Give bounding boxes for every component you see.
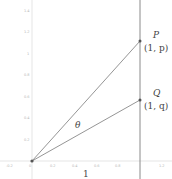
svg-text:0.4: 0.4 <box>24 116 30 120</box>
x-tick-labels: -0.2 0 0.2 0.4 0.6 0.8 1.2 <box>6 164 165 168</box>
y-tick-labels: 0.2 0.4 0.6 0.8 1 1.2 1.4 <box>24 9 30 142</box>
svg-text:1.2: 1.2 <box>159 164 165 168</box>
label-q-coord: (1, q) <box>144 101 168 111</box>
label-q: Q <box>153 88 161 98</box>
svg-text:0.8: 0.8 <box>115 164 121 168</box>
svg-text:1: 1 <box>27 52 29 56</box>
label-unit-length: 1 <box>83 169 89 179</box>
origin-point <box>30 159 33 162</box>
label-p-coord: (1, p) <box>144 43 168 53</box>
svg-text:1.2: 1.2 <box>24 30 30 34</box>
ray-oq <box>32 100 140 161</box>
ray-op <box>32 41 140 161</box>
label-p: P <box>152 30 160 40</box>
svg-text:1.4: 1.4 <box>24 9 30 13</box>
svg-text:0.8: 0.8 <box>24 73 30 77</box>
diagram-canvas: -0.2 0 0.2 0.4 0.6 0.8 1.2 0.2 0.4 0.6 0… <box>0 0 172 179</box>
svg-text:0.2: 0.2 <box>50 164 56 168</box>
point-p <box>139 40 142 43</box>
svg-text:-0.2: -0.2 <box>6 164 13 168</box>
svg-text:0.2: 0.2 <box>24 138 30 142</box>
svg-text:0.6: 0.6 <box>94 164 100 168</box>
point-q <box>139 99 142 102</box>
svg-text:0.6: 0.6 <box>24 95 30 99</box>
label-theta: θ <box>75 120 81 130</box>
svg-text:0.4: 0.4 <box>72 164 78 168</box>
svg-text:0: 0 <box>29 164 31 168</box>
